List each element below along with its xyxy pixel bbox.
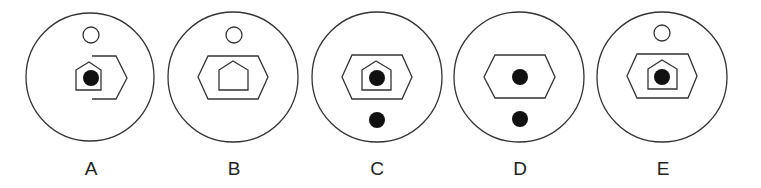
option-label: B bbox=[228, 158, 241, 179]
option-label: E bbox=[657, 158, 670, 179]
filled-dot bbox=[512, 69, 528, 85]
option-c[interactable]: C bbox=[312, 12, 442, 179]
filled-dot bbox=[83, 70, 99, 86]
pentagon bbox=[219, 61, 248, 90]
small-open-circle bbox=[83, 27, 99, 43]
filled-dot-bottom bbox=[512, 111, 528, 127]
option-b[interactable]: B bbox=[168, 12, 298, 179]
option-d[interactable]: D bbox=[454, 12, 584, 179]
outer-circle bbox=[168, 12, 298, 142]
filled-dot bbox=[654, 69, 670, 85]
filled-dot-bottom bbox=[369, 112, 385, 128]
option-label: A bbox=[85, 158, 98, 179]
hexagon bbox=[198, 56, 268, 99]
option-a[interactable]: A bbox=[26, 13, 154, 179]
option-e[interactable]: E bbox=[597, 12, 727, 179]
option-label: C bbox=[370, 158, 384, 179]
filled-dot bbox=[369, 70, 385, 86]
small-open-circle bbox=[654, 25, 670, 41]
small-open-circle bbox=[226, 27, 242, 43]
options-diagram: A B C D E bbox=[0, 0, 761, 188]
option-label: D bbox=[513, 158, 527, 179]
